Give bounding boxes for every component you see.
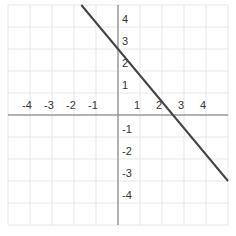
coordinate-plane: -4-3-2-11234 4321-1-2-3-4: [0, 0, 236, 236]
x-tick-label: 1: [134, 99, 140, 111]
y-tick-label: -4: [122, 189, 132, 201]
x-tick-label: -1: [88, 99, 98, 111]
y-tick-label: -3: [122, 167, 132, 179]
x-tick-label: -4: [22, 99, 32, 111]
y-tick-label: 4: [122, 13, 128, 25]
y-tick-label: -1: [122, 123, 132, 135]
axes: [8, 5, 228, 225]
x-tick-label: 3: [178, 99, 184, 111]
x-tick-labels: -4-3-2-11234: [22, 99, 206, 111]
y-tick-labels: 4321-1-2-3-4: [122, 13, 132, 201]
x-tick-label: -2: [66, 99, 76, 111]
x-tick-label: 4: [200, 99, 206, 111]
y-tick-label: -2: [122, 145, 132, 157]
x-tick-label: -3: [44, 99, 54, 111]
y-tick-label: 3: [122, 35, 128, 47]
y-tick-label: 1: [122, 79, 128, 91]
